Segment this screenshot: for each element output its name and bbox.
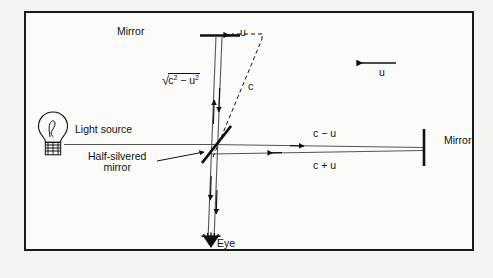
diagram-canvas — [0, 0, 493, 278]
label-c-plus-u: c + u — [313, 160, 336, 171]
radical-minus-u: − u — [177, 74, 195, 86]
figure-page: Mirror Mirror Light source Half-silvered… — [0, 0, 493, 278]
label-sqrt-c2-minus-u2: √c2 − u2 — [162, 73, 200, 87]
label-mirror-top: Mirror — [117, 26, 144, 37]
label-u-drift: u — [379, 67, 385, 78]
label-light-source: Light source — [75, 124, 132, 135]
label-eye: Eye — [217, 238, 235, 249]
radical-exp-2: 2 — [195, 74, 199, 81]
radical-body: c2 − u2 — [168, 73, 200, 87]
light-bulb-icon — [39, 112, 68, 155]
label-c-minus-u: c − u — [313, 128, 336, 139]
label-mirror-right: Mirror — [444, 135, 471, 146]
label-u-top: u — [240, 27, 246, 38]
label-half-silvered-line2: mirror — [88, 162, 146, 173]
label-half-silvered-mirror: Half-silvered mirror — [88, 151, 146, 174]
beam-horizontal-arm — [212, 145, 424, 155]
label-c-diagonal: c — [248, 81, 253, 92]
leader-line-half-silvered — [157, 152, 204, 161]
